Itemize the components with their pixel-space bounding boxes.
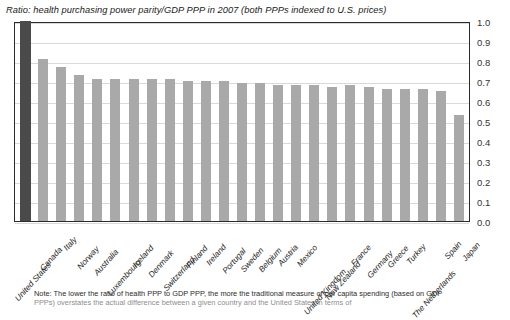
bar-slot: [378, 23, 396, 221]
note-line-2: PPPs) overstates the actual difference b…: [34, 298, 500, 307]
bar: [219, 81, 229, 221]
y-axis-tick-label: 0.6: [474, 97, 508, 108]
x-axis-tick-label: Canada: [39, 245, 65, 272]
bar-slot: [52, 23, 70, 221]
y-axis-tick-label: 0.7: [474, 77, 508, 88]
bar-slot: [251, 23, 269, 221]
bar: [20, 21, 31, 221]
chart-title: Ratio: health purchasing power parity/GD…: [6, 5, 476, 15]
bar: [147, 79, 157, 221]
bar: [183, 81, 193, 221]
bar: [74, 75, 84, 221]
bar: [400, 89, 410, 221]
bar-slot: [450, 23, 468, 221]
bar: [201, 81, 211, 221]
bar: [273, 85, 283, 221]
x-axis-tick-label: Turkey: [405, 242, 428, 266]
bar: [56, 67, 66, 221]
bar: [129, 79, 139, 221]
bar: [92, 79, 102, 221]
bar: [382, 89, 392, 221]
bar: [327, 87, 337, 221]
x-axis: United StatesCanadaItalyNorwayAustraliaL…: [14, 222, 470, 286]
bar-slot: [179, 23, 197, 221]
bar-slot: [305, 23, 323, 221]
bar-slot: [70, 23, 88, 221]
bar-slot: [341, 23, 359, 221]
y-axis-tick-label: 0.4: [474, 137, 508, 148]
y-axis-tick-label: 0.2: [474, 177, 508, 188]
x-axis-tick-label: Spain: [443, 240, 464, 262]
bar: [454, 115, 464, 221]
x-axis-tick-label: Iceland: [131, 244, 155, 270]
bar: [38, 59, 48, 221]
bar: [237, 83, 247, 221]
plot-area: [14, 22, 470, 222]
bar-slot: [287, 23, 305, 221]
bar: [110, 79, 120, 221]
bar-slot: [34, 23, 52, 221]
bar-slot: [143, 23, 161, 221]
bar: [255, 83, 265, 221]
chart-note: Note: The lower the ratio of health PPP …: [34, 289, 500, 308]
y-axis-tick-label: 0.5: [474, 117, 508, 128]
bar: [345, 85, 355, 221]
bar-slot: [269, 23, 287, 221]
bar: [418, 89, 428, 221]
bar-slot: [323, 23, 341, 221]
bar-slot: [359, 23, 377, 221]
y-axis-tick-label: 0.8: [474, 57, 508, 68]
bar: [291, 85, 301, 221]
bar-slot: [215, 23, 233, 221]
bar-slot: [124, 23, 142, 221]
bar: [165, 79, 175, 221]
y-axis-tick-label: 0.9: [474, 37, 508, 48]
x-axis-tick-label: Ireland: [204, 243, 227, 268]
bar-slot: [106, 23, 124, 221]
y-axis-tick-label: 1.0: [474, 17, 508, 28]
bar: [364, 87, 374, 221]
bar-slot: [233, 23, 251, 221]
bar: [436, 91, 446, 221]
bar-slot: [396, 23, 414, 221]
bar-slot: [88, 23, 106, 221]
bar-slot: [197, 23, 215, 221]
bar-slot: [161, 23, 179, 221]
bar: [309, 85, 319, 221]
bar-slot: [16, 23, 34, 221]
y-axis: 1.00.90.80.70.60.50.40.30.20.10.0: [474, 22, 508, 222]
y-axis-tick-label: 0.1: [474, 197, 508, 208]
y-axis-tick-label: 0.3: [474, 157, 508, 168]
x-axis-tick-label: Japan: [460, 241, 482, 264]
bar-slot: [432, 23, 450, 221]
y-axis-tick-label: 0.0: [474, 217, 508, 228]
bar-slot: [414, 23, 432, 221]
note-line-1: Note: The lower the ratio of health PPP …: [34, 289, 500, 298]
bars-layer: [15, 23, 469, 221]
